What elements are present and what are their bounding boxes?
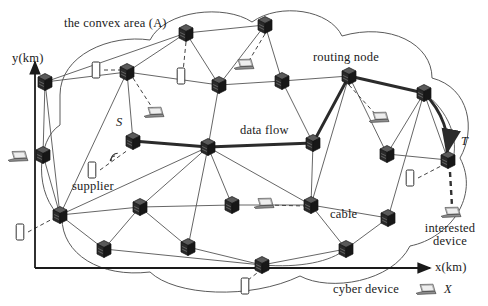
supplier-1[interactable] — [92, 62, 100, 78]
supplier-3[interactable] — [88, 162, 96, 178]
routing-node-4[interactable] — [120, 64, 134, 81]
label-source-s: S — [116, 116, 122, 129]
cyber-device-4[interactable] — [369, 112, 389, 122]
label-convex-area: the convex area (A) — [64, 17, 167, 30]
label-interested-device: interested device — [414, 222, 486, 248]
label-data-flow: data flow — [240, 124, 289, 137]
routing-node-10[interactable] — [201, 139, 215, 156]
cyber-devices — [8, 59, 461, 217]
cyber-device-1[interactable] — [8, 151, 28, 161]
data-flow-path — [133, 76, 448, 152]
legend-cyber-device-label: cyber device — [333, 283, 399, 296]
routing-node-17[interactable] — [306, 135, 320, 152]
label-cable: cable — [330, 208, 357, 221]
routing-node-6[interactable] — [133, 199, 147, 216]
routing-node-21[interactable] — [417, 85, 431, 102]
cyber-device-interested[interactable] — [441, 207, 461, 217]
routing-node-1[interactable] — [38, 74, 52, 91]
suppliers — [16, 62, 414, 294]
routing-node-20[interactable] — [339, 241, 353, 258]
diagram-canvas — [0, 0, 488, 306]
y-axis-label: y(km) — [12, 52, 44, 65]
cyber-device-2[interactable] — [144, 107, 164, 117]
routing-node-8[interactable] — [179, 25, 193, 42]
routing-node-source-s[interactable] — [126, 133, 140, 150]
interested-device-link — [450, 172, 452, 206]
label-supplier: supplier — [72, 180, 114, 193]
routing-node-16[interactable] — [304, 197, 318, 214]
supplier-2[interactable] — [177, 68, 185, 84]
routing-node-23[interactable] — [380, 146, 394, 163]
routing-node-7[interactable] — [97, 241, 111, 258]
routing-node-11[interactable] — [225, 197, 239, 214]
supplier-4[interactable] — [16, 224, 24, 240]
routing-node-12[interactable] — [181, 239, 195, 256]
routing-node-target-t[interactable] — [441, 152, 455, 169]
cyber-device-5[interactable] — [254, 198, 274, 208]
supplier-6[interactable] — [241, 278, 249, 294]
routing-node-3[interactable] — [53, 207, 67, 224]
routing-node-9[interactable] — [212, 77, 226, 94]
legend-cyber-device-symbol: X — [444, 283, 452, 296]
routing-node-18[interactable] — [342, 68, 356, 85]
supplier-5[interactable] — [406, 170, 414, 186]
label-target-t: T — [461, 135, 468, 148]
legend-laptop-icon — [416, 284, 436, 294]
routing-node-15[interactable] — [275, 73, 289, 90]
routing-node-19[interactable] — [381, 210, 395, 227]
network-topology-figure: the convex area (A) routing node data fl… — [0, 0, 488, 306]
label-routing-node: routing node — [313, 51, 379, 64]
routing-node-14[interactable] — [258, 17, 272, 34]
x-axis-label: x(km) — [435, 261, 467, 274]
routing-node-13[interactable] — [255, 257, 269, 274]
routing-node-2[interactable] — [36, 147, 50, 164]
